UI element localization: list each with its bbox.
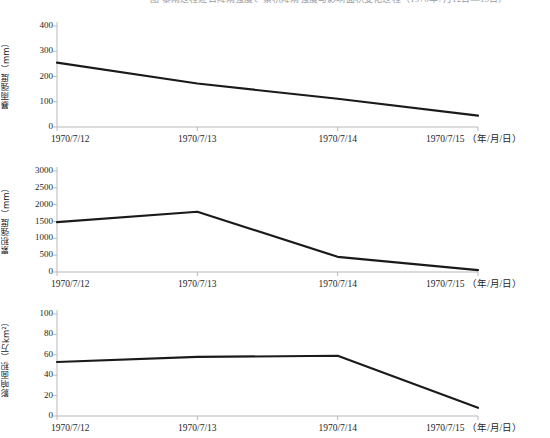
x-tick-label: 1970/7/12	[51, 134, 90, 145]
clipped-figure-caption: 图 暴雨过程逐日降雨强度、累积降雨强度与影响面积变化过程（1970年7月12日—…	[150, 0, 550, 5]
x-tick-label: 1970/7/13	[178, 279, 217, 290]
x-tick-label: 1970/7/15 （年/月/日）	[426, 134, 522, 145]
x-tick-label: 1970/7/13	[178, 134, 217, 145]
x-tick-label: 1970/7/15 （年/月/日）	[426, 279, 522, 290]
data-series-line	[57, 212, 478, 270]
data-series-line	[57, 63, 478, 116]
axis-lines	[57, 310, 478, 416]
plot-area-2	[0, 298, 550, 438]
plot-area-0	[0, 8, 550, 148]
x-tick-label: 1970/7/13	[178, 423, 217, 434]
x-tick-label: 1970/7/14	[318, 279, 357, 290]
data-series-line	[57, 356, 478, 408]
chart-page: 图 暴雨过程逐日降雨强度、累积降雨强度与影响面积变化过程（1970年7月12日—…	[0, 0, 550, 438]
plot-area-1	[0, 153, 550, 293]
x-tick-label: 1970/7/14	[318, 134, 357, 145]
chart-panel-rain-intensity: 暴雨强度（mm） 0100200300400 1970/7/121970/7/1…	[0, 8, 550, 148]
x-tick-label: 1970/7/15 （年/月/日）	[426, 423, 522, 434]
axis-lines	[57, 167, 478, 272]
x-tick-label: 1970/7/14	[318, 423, 357, 434]
x-tick-label: 1970/7/12	[51, 423, 90, 434]
chart-panel-cumulative-intensity: 累积强度（mm） 050010001500200025003000 1970/7…	[0, 153, 550, 293]
chart-panel-affected-area: 影响面积（万km²） 020406080100 1970/7/121970/7/…	[0, 298, 550, 438]
axis-lines	[57, 22, 478, 127]
x-tick-label: 1970/7/12	[51, 279, 90, 290]
